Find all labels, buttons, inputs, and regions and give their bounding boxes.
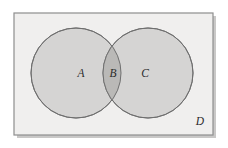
set-label-b: B [109, 67, 116, 79]
universe-label-d: D [195, 115, 205, 127]
venn-diagram-figure: A B C D [0, 0, 228, 148]
set-label-c: C [141, 67, 149, 79]
set-label-a: A [76, 67, 85, 79]
venn-diagram-canvas: A B C D [0, 0, 228, 148]
